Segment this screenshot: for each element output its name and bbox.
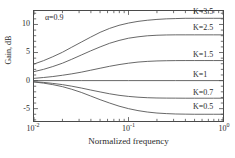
y-tick-label: -5: [23, 105, 30, 113]
curve-label-k05: K=0.5: [193, 103, 213, 111]
bode-gain-chart: 1050-5 Gain, dB α=0.9 10-210-1100 Normal…: [0, 0, 235, 158]
x-tick-label: 100: [219, 125, 230, 133]
y-tick-label: 5: [26, 48, 30, 56]
curve-label-k35: K=3.5: [193, 8, 213, 16]
x-tick-label: 10-1: [122, 125, 135, 133]
x-tick-label: 10-2: [27, 125, 40, 133]
curve-label-k25: K=2.5: [193, 24, 213, 32]
alpha-annotation: α=0.9: [45, 14, 64, 22]
y-tick-label: 10: [22, 20, 30, 28]
curve-label-k07: K=0.7: [193, 89, 213, 97]
y-tick-label: 0: [26, 77, 30, 85]
curve-label-k1: K=1: [193, 71, 207, 79]
x-axis-title: Normalized frequency: [33, 137, 224, 146]
curve-label-k15: K=1.5: [193, 51, 213, 59]
y-axis-title: Gain, dB: [5, 22, 13, 78]
